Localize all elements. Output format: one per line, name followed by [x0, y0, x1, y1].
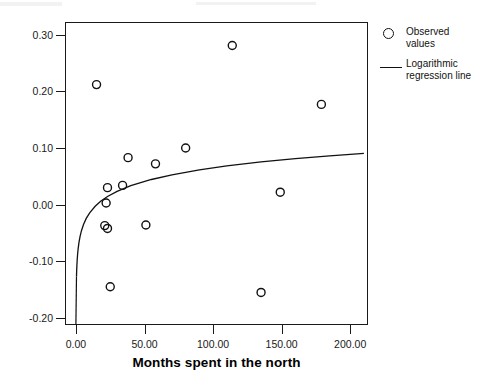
legend-item-observed-values: Observed values [380, 26, 485, 49]
scan-artifact [0, 2, 62, 6]
x-axis-tick-label: 0.00 [66, 339, 86, 350]
y-axis-tick [56, 318, 65, 319]
data-point-marker [228, 42, 236, 50]
legend-label-regression-line1: Logarithmic [406, 58, 471, 70]
data-point-marker [93, 81, 101, 89]
y-axis-tick [56, 205, 65, 206]
scatter-chart-figure: -0.20-0.100.000.100.200.300.0050.00100.0… [0, 0, 485, 387]
x-axis-tick [350, 325, 351, 334]
open-circle-icon [383, 28, 394, 39]
data-point-marker [106, 283, 114, 291]
chart-legend: Observed values Logarithmic regression l… [380, 26, 485, 90]
y-axis-tick-label: -0.10 [29, 256, 53, 267]
y-axis-tick-label: 0.20 [33, 86, 53, 97]
legend-label-regression: Logarithmic regression line [406, 58, 471, 81]
scan-artifact [196, 2, 316, 5]
regression-line [76, 153, 363, 276]
legend-label-observed: Observed values [406, 26, 449, 49]
legend-label-regression-line2: regression line [406, 70, 471, 82]
y-axis-tick-label: 0.10 [33, 143, 53, 154]
data-point-marker [124, 154, 132, 162]
data-point-marker [182, 144, 190, 152]
x-axis-tick-label: 100.00 [197, 339, 229, 350]
y-axis-tick [56, 91, 65, 92]
data-point-marker [104, 184, 112, 192]
x-axis-title: Months spent in the north [65, 355, 368, 370]
legend-key-observed [380, 26, 406, 39]
legend-key-regression [380, 58, 406, 68]
x-axis-tick-label: 200.00 [334, 339, 366, 350]
x-axis-tick-label: 50.00 [131, 339, 157, 350]
legend-label-observed-line2: values [406, 38, 449, 50]
data-point-marker [257, 288, 265, 296]
y-axis-tick-label: 0.30 [33, 30, 53, 41]
x-axis-tick [282, 325, 283, 334]
y-axis-tick [56, 261, 65, 262]
x-axis-tick [145, 325, 146, 334]
data-point-marker [142, 221, 150, 229]
x-axis-tick [76, 325, 77, 334]
data-point-marker [151, 160, 159, 168]
x-axis-tick [213, 325, 214, 334]
line-segment-icon [380, 67, 402, 68]
regression-line-asymptote [76, 277, 77, 325]
data-point-marker [276, 188, 284, 196]
x-axis-tick-label: 150.00 [266, 339, 298, 350]
y-axis-tick-label: -0.20 [29, 313, 53, 324]
data-point-marker [317, 100, 325, 108]
legend-item-regression-line: Logarithmic regression line [380, 58, 485, 81]
y-axis-tick [56, 148, 65, 149]
y-axis-tick [56, 35, 65, 36]
y-axis-tick-label: 0.00 [33, 200, 53, 211]
chart-data-layer [65, 22, 368, 325]
legend-label-observed-line1: Observed [406, 26, 449, 38]
